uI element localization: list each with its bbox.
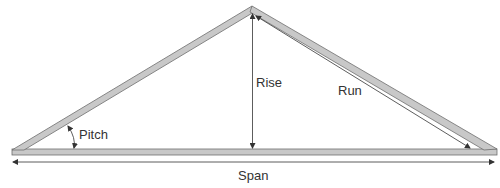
run-label: Run [338, 83, 362, 98]
pitch-label: Pitch [79, 127, 108, 142]
run-arrow [256, 16, 470, 148]
right-rafter [250, 6, 497, 150]
pitch-arc [68, 126, 74, 148]
span-label: Span [238, 168, 268, 183]
rise-label: Rise [256, 75, 282, 90]
truss-diagram: Pitch Rise Run Span [0, 0, 500, 188]
bottom-chord [12, 149, 497, 155]
left-rafter [12, 6, 254, 150]
